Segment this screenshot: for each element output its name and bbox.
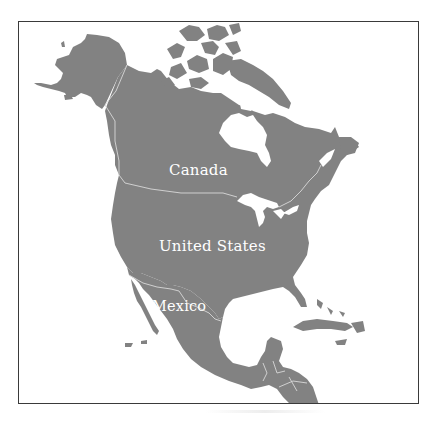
label-mexico: Mexico — [152, 299, 206, 314]
map-frame: Canada United States Mexico — [18, 21, 419, 404]
label-united-states: United States — [159, 239, 266, 254]
label-canada: Canada — [169, 163, 228, 178]
revillagigedo-islands — [125, 340, 147, 347]
island — [61, 41, 65, 47]
south-america-edge — [341, 403, 359, 404]
north-america-map — [18, 21, 419, 404]
caption-shadow — [205, 410, 325, 413]
